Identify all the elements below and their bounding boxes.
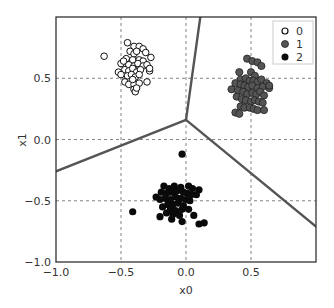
- data-point-class-1: [260, 92, 267, 99]
- y-tick-label: −0.5: [24, 195, 51, 208]
- y-axis-label: x1: [16, 133, 29, 147]
- data-point-class-2: [193, 191, 200, 198]
- data-point-class-2: [129, 208, 136, 215]
- data-point-class-1: [258, 62, 265, 69]
- data-point-class-2: [176, 212, 183, 219]
- legend-marker-0-icon: [282, 28, 288, 34]
- data-point-class-0: [133, 85, 140, 92]
- x-tick-label: 0.5: [242, 266, 260, 279]
- data-point-class-2: [168, 216, 175, 223]
- data-point-class-2: [190, 212, 197, 219]
- legend-box: [273, 21, 313, 64]
- y-tick-label: 0.0: [34, 134, 52, 147]
- data-point-class-1: [236, 69, 243, 76]
- y-tick-label: −1.0: [24, 256, 51, 269]
- data-point-class-0: [148, 54, 155, 61]
- data-point-class-0: [124, 39, 131, 46]
- legend-marker-2-icon: [282, 54, 289, 61]
- data-point-class-2: [201, 219, 208, 226]
- x-axis-ticks: −1.0−0.50.00.5: [43, 266, 260, 279]
- data-point-class-0: [136, 71, 143, 78]
- data-point-class-1: [228, 86, 235, 93]
- data-point-class-0: [142, 49, 149, 56]
- boundary-line: [186, 17, 200, 120]
- data-point-class-2: [179, 206, 186, 213]
- data-points: [101, 39, 273, 227]
- legend-label-2: 2: [296, 51, 303, 64]
- y-axis-ticks: −1.0−0.50.00.5: [24, 72, 51, 269]
- data-point-class-2: [156, 213, 163, 220]
- data-point-class-2: [159, 203, 166, 210]
- legend-label-1: 1: [296, 38, 303, 51]
- data-point-class-2: [179, 151, 186, 158]
- data-point-class-0: [129, 76, 136, 83]
- data-point-class-2: [185, 206, 192, 213]
- data-point-class-2: [186, 197, 193, 204]
- legend-marker-1-icon: [282, 41, 289, 48]
- data-point-class-2: [173, 187, 180, 194]
- data-point-class-2: [163, 209, 170, 216]
- scatter-chart: −1.0−0.50.00.5 −1.0−0.50.00.5 x0 x1 0 1 …: [0, 0, 334, 308]
- data-point-class-2: [179, 218, 186, 225]
- legend: 0 1 2: [273, 21, 313, 64]
- legend-label-0: 0: [296, 25, 303, 38]
- data-point-class-1: [259, 99, 266, 106]
- data-point-class-1: [266, 82, 273, 89]
- y-tick-label: 0.5: [34, 72, 52, 85]
- data-point-class-0: [101, 53, 108, 60]
- x-axis-label: x0: [179, 284, 193, 297]
- data-point-class-0: [146, 65, 153, 72]
- data-point-class-1: [260, 107, 267, 114]
- x-tick-label: −0.5: [108, 266, 135, 279]
- data-point-class-0: [118, 71, 125, 78]
- x-tick-label: 0.0: [177, 266, 195, 279]
- data-point-class-1: [236, 110, 243, 117]
- data-point-class-0: [144, 79, 151, 86]
- data-point-class-0: [133, 48, 140, 55]
